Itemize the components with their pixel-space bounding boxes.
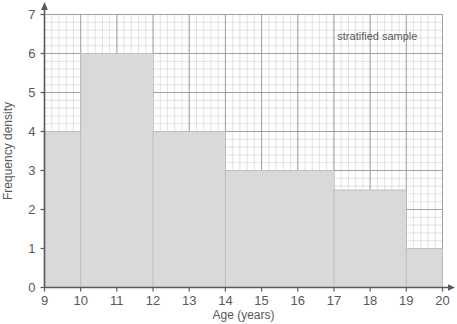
- y-axis-tick-label: 7: [28, 7, 35, 22]
- frequency-density-histogram: 01234567 91011121314151617181920 Age (ye…: [0, 0, 457, 324]
- histogram-bar: [406, 249, 442, 288]
- x-axis-tick-label: 14: [218, 293, 232, 308]
- y-axis-tick-label: 1: [28, 241, 35, 256]
- y-axis-tick-label: 3: [28, 163, 35, 178]
- histogram-bar: [153, 132, 225, 288]
- y-axis-tick-label: 4: [28, 124, 35, 139]
- y-axis-tick-label: 0: [28, 280, 35, 295]
- x-axis-tick-label: 12: [146, 293, 160, 308]
- histogram-bar: [81, 54, 153, 288]
- y-axis-tick-label: 5: [28, 85, 35, 100]
- x-axis-tick-label: 17: [327, 293, 341, 308]
- x-axis-tick-label: 10: [73, 293, 87, 308]
- x-axis-tick-label: 9: [41, 293, 48, 308]
- y-axis-tick-label: 6: [28, 46, 35, 61]
- x-axis-tick-label: 11: [110, 293, 124, 308]
- chart-annotations: stratified sample: [337, 30, 417, 42]
- x-axis-tick-label: 20: [435, 293, 449, 308]
- histogram-bar: [225, 171, 334, 288]
- x-axis-tick-label: 19: [399, 293, 413, 308]
- histogram-figure: 01234567 91011121314151617181920 Age (ye…: [0, 0, 457, 324]
- x-axis-tick-label: 18: [363, 293, 377, 308]
- y-axis-title: Frequency density: [1, 102, 15, 200]
- y-axis-tick-label: 2: [28, 202, 35, 217]
- histogram-bar: [45, 132, 81, 288]
- x-axis-tick-label: 16: [291, 293, 305, 308]
- x-axis-title: Age (years): [212, 308, 274, 322]
- x-axis-tick-label: 15: [254, 293, 268, 308]
- x-axis-tick-label: 13: [182, 293, 196, 308]
- chart-annotation-label: stratified sample: [337, 30, 417, 42]
- histogram-bar: [334, 190, 406, 288]
